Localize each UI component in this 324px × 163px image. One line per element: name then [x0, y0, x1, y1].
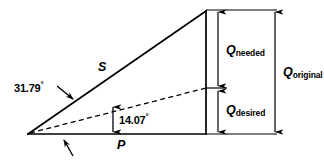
apparent-power-label: S [98, 61, 106, 74]
base-pointer-arrow [64, 140, 73, 156]
q-original-label: Qoriginal [283, 66, 323, 79]
angle-desired-label: 14.07° [119, 113, 149, 126]
dashed-desired-line [30, 88, 206, 133]
q-needed-symbol: Q [226, 43, 236, 57]
q-original-symbol: Q [283, 65, 293, 79]
q-original-subscript: original [293, 70, 323, 80]
real-power-label: P [117, 139, 125, 152]
hypotenuse-line-s [28, 11, 206, 134]
q-needed-label: Qneeded [226, 44, 265, 57]
angle-original-value: 31.79 [14, 82, 41, 94]
figure-canvas [0, 0, 324, 163]
q-needed-subscript: needed [236, 48, 265, 58]
degree-symbol-icon: ° [41, 80, 44, 89]
angle-original-label: 31.79° [14, 81, 44, 94]
q-desired-label: Qdesired [226, 104, 265, 117]
q-desired-subscript: desired [236, 108, 266, 118]
degree-symbol-icon-2: ° [146, 112, 149, 121]
power-triangle-figure: 31.79° S 14.07° P Qneeded Qdesired Qorig… [0, 0, 324, 163]
angle-desired-value: 14.07 [119, 114, 146, 126]
q-desired-symbol: Q [226, 103, 236, 117]
angle-original-leader-line [57, 86, 73, 99]
